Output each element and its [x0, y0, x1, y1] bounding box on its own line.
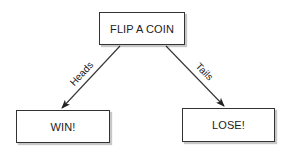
edge-heads: Heads	[62, 46, 120, 108]
edge-label-heads: Heads	[68, 59, 96, 88]
node-label: WIN!	[51, 121, 76, 133]
edge-label-tails: Tails	[194, 61, 216, 83]
coin-flip-diagram: Heads Tails FLIP A COIN WIN! LOSE!	[0, 0, 294, 152]
node-label: LOSE!	[212, 119, 245, 131]
node-label: FLIP A COIN	[110, 23, 174, 35]
node-lose: LOSE!	[182, 108, 275, 142]
node-win: WIN!	[16, 110, 110, 143]
node-flip-a-coin: FLIP A COIN	[99, 12, 185, 45]
edge-tails: Tails	[166, 46, 224, 106]
arrow-tails-icon	[166, 46, 224, 106]
